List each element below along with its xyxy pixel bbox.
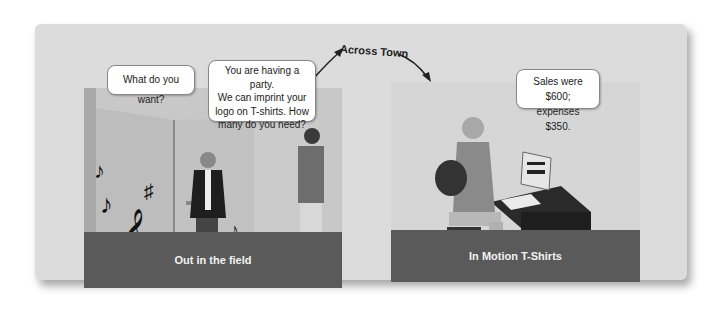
svg-text:♪: ♪ bbox=[100, 189, 113, 219]
svg-text:♪: ♪ bbox=[94, 158, 105, 183]
caption-in-motion-tshirts: In Motion T-Shirts bbox=[391, 230, 640, 282]
across-town-arrow-icon bbox=[310, 30, 440, 85]
speech-bubble-office-worker: Sales were $600; expenses $350. bbox=[516, 69, 600, 109]
speech-bubble-customer: What do you want? bbox=[107, 65, 195, 95]
svg-text:♯: ♯ bbox=[144, 180, 154, 202]
caption-out-in-field: Out in the field bbox=[84, 232, 342, 288]
speech-bubble-salesperson: You are having a party. We can imprint y… bbox=[208, 60, 316, 122]
panel-in-motion-tshirts: In Motion T-Shirts bbox=[391, 82, 640, 282]
